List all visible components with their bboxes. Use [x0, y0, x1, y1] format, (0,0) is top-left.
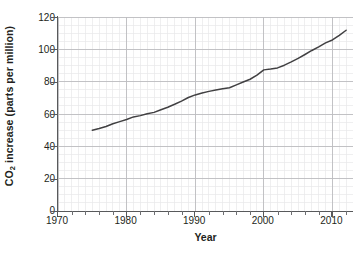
y-axis-title-subscript: 2 [8, 165, 17, 169]
y-axis-title-text: CO2 increase (parts per million) [3, 25, 15, 185]
chart-figure: CO2 increase (parts per million) 120 100… [0, 0, 353, 256]
x-tick-label-2010: 2010 [311, 216, 351, 226]
y-axis-title-rest: increase (parts per million) [3, 25, 15, 165]
x-tick-mark-minor-1984 [154, 211, 155, 215]
x-tick-mark-minor-1994 [223, 211, 224, 215]
x-tick-mark-minor-1998 [250, 211, 251, 215]
chart-svg [58, 17, 353, 211]
x-tick-mark-minor-2002 [278, 211, 279, 215]
x-tick-mark-minor-2008 [319, 211, 320, 215]
x-tick-mark-minor-1996 [236, 211, 237, 215]
y-axis-title: CO2 increase (parts per million) [0, 0, 18, 211]
x-tick-mark-minor-1976 [99, 211, 100, 215]
y-axis-spine [57, 16, 58, 212]
plot-area [58, 17, 353, 211]
x-tick-mark-minor-1982 [140, 211, 141, 215]
x-tick-mark-minor-1972 [72, 211, 73, 215]
x-tick-mark-minor-2004 [291, 211, 292, 215]
data-line-co2 [92, 30, 346, 130]
x-axis-title: Year [58, 231, 353, 243]
x-tick-mark-minor-1974 [85, 211, 86, 215]
y-axis-title-prefix: CO [3, 170, 15, 186]
x-axis-spine [57, 211, 353, 212]
x-tick-label-1990: 1990 [174, 216, 214, 226]
x-tick-mark-minor-1986 [168, 211, 169, 215]
x-tick-label-1980: 1980 [106, 216, 146, 226]
major-horizontal-gridlines [58, 17, 353, 211]
x-tick-label-2000: 2000 [243, 216, 283, 226]
x-tick-mark-minor-1988 [182, 211, 183, 215]
x-tick-mark-minor-1992 [209, 211, 210, 215]
x-tick-mark-minor-2012 [346, 211, 347, 215]
x-tick-label-1970: 1970 [37, 216, 77, 226]
x-tick-mark-minor-1978 [113, 211, 114, 215]
x-tick-mark-minor-2006 [305, 211, 306, 215]
